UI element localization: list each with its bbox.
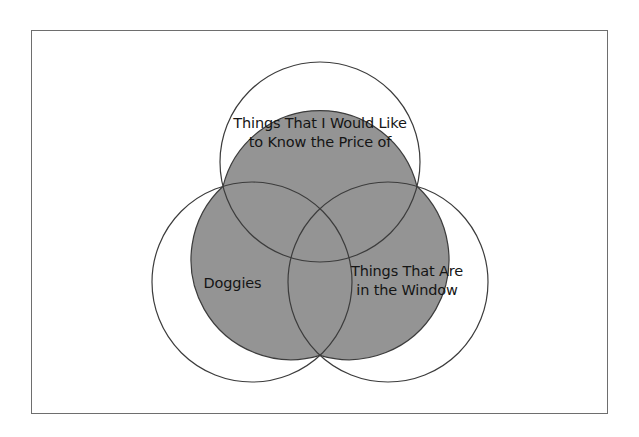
venn-diagram-svg: [0, 0, 639, 437]
diagram-page: Things That I Would Like to Know the Pri…: [0, 0, 639, 437]
triple-intersection-region: [191, 111, 449, 360]
